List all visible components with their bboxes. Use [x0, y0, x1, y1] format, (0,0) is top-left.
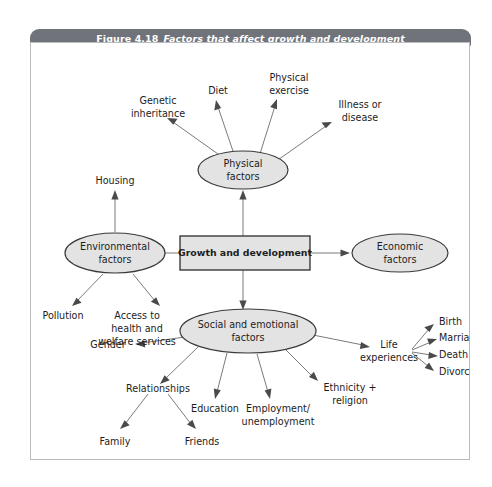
connector-physical-to-diet-arrow	[214, 100, 221, 110]
leaf-death-label: Death	[439, 349, 468, 360]
leaf-genetic-inheritance: Genetic inheritance	[131, 95, 185, 119]
connector-relationships-to-friends	[168, 394, 191, 424]
leaf-relationships-line1: Relationships	[126, 383, 190, 394]
connector-environmental-to-pollution-arrow	[72, 298, 82, 306]
leaf-ethnicity-line1: Ethnicity +	[323, 382, 376, 393]
node-growth-and-development[interactable]: Growth and development	[178, 236, 313, 270]
connector-physical-to-illness-arrow	[322, 122, 333, 128]
leaf-access-line2: health and	[111, 323, 162, 334]
node-growth-and-development-label: Growth and development	[178, 247, 313, 258]
leaf-illness-or-disease: Illness or disease	[338, 99, 381, 123]
node-economic-factors-label-line2: factors	[383, 254, 416, 265]
leaf-pollution-line1: Pollution	[42, 310, 83, 321]
leaf-access-line1: Access to	[114, 310, 160, 321]
leaf-relationships: Relationships	[126, 383, 190, 394]
leaf-employment-line1: Employment/	[246, 403, 311, 414]
connector-social-to-employment-arrow	[265, 389, 272, 400]
node-physical-factors[interactable]: Physical factors	[198, 151, 288, 189]
connector-relationships-to-family-arrow	[120, 420, 130, 429]
leaf-employment-line2: unemployment	[242, 416, 315, 427]
node-economic-factors-shape	[352, 234, 448, 272]
node-physical-factors-shape	[198, 151, 288, 189]
connector-life-to-birth-arrow	[424, 324, 434, 332]
connector-social-to-employment	[257, 354, 268, 392]
leaf-diet: Diet	[208, 85, 228, 96]
connector-social-to-relationships	[165, 347, 198, 379]
node-physical-factors-label-line2: factors	[226, 171, 259, 182]
connector-life-to-marriage-arrow	[427, 338, 437, 345]
figure-root: Figure 4.18 Factors that affect growth a…	[0, 0, 492, 487]
node-environmental-factors-label-line1: Environmental	[80, 241, 150, 252]
node-social-and-emotional-factors[interactable]: Social and emotional factors	[180, 309, 316, 353]
connector-social-to-life-experiences	[313, 335, 363, 345]
leaf-illness-or-disease-line2: disease	[342, 112, 379, 123]
node-environmental-factors-label-line2: factors	[98, 254, 131, 265]
leaf-physical-exercise: Physical exercise	[269, 72, 309, 96]
connector-physical-to-illness	[275, 126, 326, 162]
leaf-friends-label: Friends	[185, 436, 220, 447]
leaf-family: Family	[100, 436, 131, 447]
connector-environmental-to-access-arrow	[151, 297, 160, 306]
leaf-gender-line1: Gender	[90, 339, 125, 350]
leaf-illness-or-disease-line1: Illness or	[338, 99, 381, 110]
leaf-birth: Birth	[439, 316, 462, 327]
leaf-employment-unemployment: Employment/ unemployment	[242, 403, 315, 427]
node-economic-factors-label-line1: Economic	[377, 241, 423, 252]
connector-relationships-to-family	[125, 394, 148, 424]
connector-social-to-education-arrow	[214, 388, 221, 399]
connector-social-to-ethnicity	[285, 349, 312, 376]
connector-social-to-ethnicity-arrow	[309, 372, 318, 381]
leaf-genetic-inheritance-line2: inheritance	[131, 108, 185, 119]
connector-environmental-to-access	[133, 274, 155, 301]
leaf-ethnicity-line2: religion	[332, 395, 368, 406]
leaf-marriage: Marriage	[439, 332, 470, 343]
leaf-life-experiences-line1: Life	[380, 339, 397, 350]
leaf-family-label: Family	[100, 436, 131, 447]
leaf-divorce: Divorce	[439, 366, 470, 377]
leaf-education: Education	[191, 403, 239, 414]
connector-environmental-to-pollution	[77, 274, 103, 301]
leaf-friends: Friends	[185, 436, 220, 447]
connector-group-relationships	[120, 394, 196, 429]
leaf-marriage-label: Marriage	[439, 332, 470, 343]
leaf-education-line1: Education	[191, 403, 239, 414]
leaf-gender: Gender	[90, 339, 125, 350]
node-economic-factors[interactable]: Economic factors	[352, 234, 448, 272]
connector-physical-to-exercise-arrow	[270, 99, 277, 109]
connector-social-to-education	[217, 353, 227, 392]
leaf-ethnicity-religion: Ethnicity + religion	[323, 382, 376, 406]
connector-physical-to-genetic	[173, 122, 225, 159]
leaf-birth-label: Birth	[439, 316, 462, 327]
mind-map-diagram: Physical factors Environmental factors E…	[30, 42, 470, 460]
connector-group-life-experiences	[412, 324, 438, 371]
connector-life-to-death-arrow	[428, 352, 438, 359]
leaf-divorce-label: Divorce	[439, 366, 470, 377]
node-social-and-emotional-factors-shape	[180, 309, 316, 353]
node-social-factors-label-line2: factors	[231, 332, 264, 343]
leaf-diet-line1: Diet	[208, 85, 228, 96]
leaf-physical-exercise-line2: exercise	[269, 85, 309, 96]
connector-center-to-economic-arrow	[341, 249, 351, 256]
node-environmental-factors-shape	[65, 233, 165, 273]
node-environmental-factors[interactable]: Environmental factors	[65, 233, 165, 273]
leaf-housing-line1: Housing	[96, 175, 135, 186]
leaf-life-experiences-line2: experiences	[360, 352, 418, 363]
leaf-life-experiences: Life experiences	[360, 339, 418, 363]
node-physical-factors-label-line1: Physical	[223, 158, 262, 169]
leaf-pollution: Pollution	[42, 310, 83, 321]
node-social-factors-label-line1: Social and emotional	[198, 319, 299, 330]
leaf-genetic-inheritance-line1: Genetic	[139, 95, 176, 106]
leaf-housing: Housing	[96, 175, 135, 186]
leaf-death: Death	[439, 349, 468, 360]
connector-social-to-life-experiences-arrow	[360, 342, 370, 349]
leaf-physical-exercise-line1: Physical	[269, 72, 308, 83]
connector-center-to-physical-arrow	[239, 190, 246, 200]
connector-environmental-to-housing-arrow	[111, 190, 118, 200]
